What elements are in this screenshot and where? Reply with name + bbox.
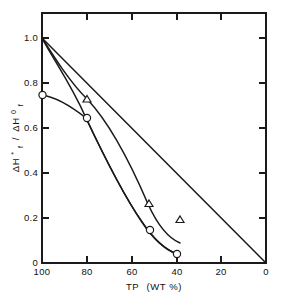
- marker-triangle-40: [176, 216, 184, 223]
- y-axis-title-delta-h-zero: ΔH: [10, 117, 21, 131]
- marker-circle-40: [173, 250, 180, 257]
- x-axis-title-unit: (WT %): [146, 281, 182, 292]
- y-tick-labels: 0 0.2 0.4 0.6 0.8 1.0: [24, 32, 38, 268]
- y-axis-title-superscript-zero: 0: [9, 109, 18, 114]
- y-tick-label-4: 0.8: [24, 77, 38, 88]
- y-axis-title-superscript-star: *: [9, 151, 18, 154]
- x-tick-label-0: 0: [263, 266, 269, 277]
- marker-circle-100: [39, 91, 46, 98]
- y-tick-label-1: 0.2: [24, 212, 38, 223]
- y-tick-label-3: 0.6: [24, 122, 38, 133]
- y-axis-title: ΔH * f / ΔH 0 f: [7, 104, 25, 173]
- x-tick-label-100: 100: [34, 266, 51, 277]
- y-tick-label-2: 0.4: [24, 167, 38, 178]
- svg-text:ΔH * f: ΔH * f / ΔH 0 f: [7, 104, 25, 173]
- x-axis-title: TP (WT %): [126, 281, 182, 292]
- y-axis-title-slash: /: [10, 137, 21, 140]
- triangle-curve-path: [42, 38, 180, 243]
- marker-circle-80: [83, 114, 90, 121]
- x-tick-label-20: 20: [215, 266, 226, 277]
- plot-svg: 0 0.2 0.4 0.6 0.8 1.0 100 80 60 40 20 0 …: [0, 0, 283, 294]
- marker-circle-52: [146, 226, 153, 233]
- y-axis-title-subscript-f1: f: [17, 145, 24, 148]
- y-axis-title-delta-h-star: ΔH: [10, 158, 21, 172]
- x-tick-label-40: 40: [171, 266, 182, 277]
- y-axis-title-subscript-f2: f: [17, 104, 24, 107]
- x-tick-label-60: 60: [126, 266, 137, 277]
- data-markers: [39, 91, 184, 257]
- y-tick-label-5: 1.0: [24, 32, 38, 43]
- circle-curve-path: [42, 95, 177, 254]
- svg-text:TP (WT %): TP (WT %): [126, 281, 182, 292]
- x-tick-labels: 100 80 60 40 20 0: [34, 266, 269, 277]
- x-axis-ticks: [42, 13, 266, 263]
- plot-frame: [42, 13, 266, 263]
- chart-figure: 0 0.2 0.4 0.6 0.8 1.0 100 80 60 40 20 0 …: [0, 0, 283, 294]
- x-axis-title-name: TP: [126, 281, 139, 292]
- x-tick-label-80: 80: [81, 266, 92, 277]
